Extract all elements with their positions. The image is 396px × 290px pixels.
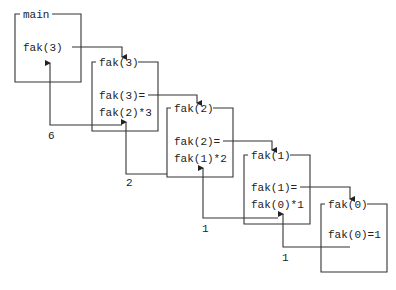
return-arrow	[126, 122, 167, 174]
frame-header: fak(1)	[251, 150, 291, 162]
return-value-label: 1	[202, 223, 209, 235]
frame-line: fak(3)	[23, 42, 63, 54]
frame-line: fak(1)*2	[174, 153, 227, 165]
frame-line: fak(1)=	[251, 182, 297, 194]
frame-fak3: fak(3) fak(3)= fak(2)*3	[92, 57, 158, 131]
frame-line: fak(0)=1	[328, 229, 381, 241]
frame-line: fak(2)=	[174, 136, 220, 148]
return-value-label: 2	[126, 177, 133, 189]
recursion-diagram: main fak(3) fak(3) fak(3)= fak(2)*3 fak(…	[0, 0, 396, 290]
frame-line: fak(0)*1	[251, 199, 304, 211]
call-arrow	[300, 187, 350, 199]
frame-line: fak(3)=	[99, 90, 145, 102]
call-arrow	[223, 141, 272, 150]
frame-line: fak(2)*3	[99, 107, 152, 119]
return-value-label: 1	[282, 252, 289, 264]
frame-header: fak(0)	[328, 199, 368, 211]
call-arrow	[72, 47, 122, 57]
call-arrow	[148, 95, 197, 103]
frame-header: main	[23, 9, 49, 21]
frame-fak2: fak(2) fak(2)= fak(1)*2	[167, 103, 233, 177]
frame-fak0: fak(0) fak(0)=1	[321, 199, 387, 272]
frame-header: fak(2)	[174, 103, 214, 115]
frame-main: main fak(3)	[15, 9, 81, 82]
frame-header: fak(3)	[99, 57, 139, 69]
return-value-label: 6	[48, 130, 55, 142]
